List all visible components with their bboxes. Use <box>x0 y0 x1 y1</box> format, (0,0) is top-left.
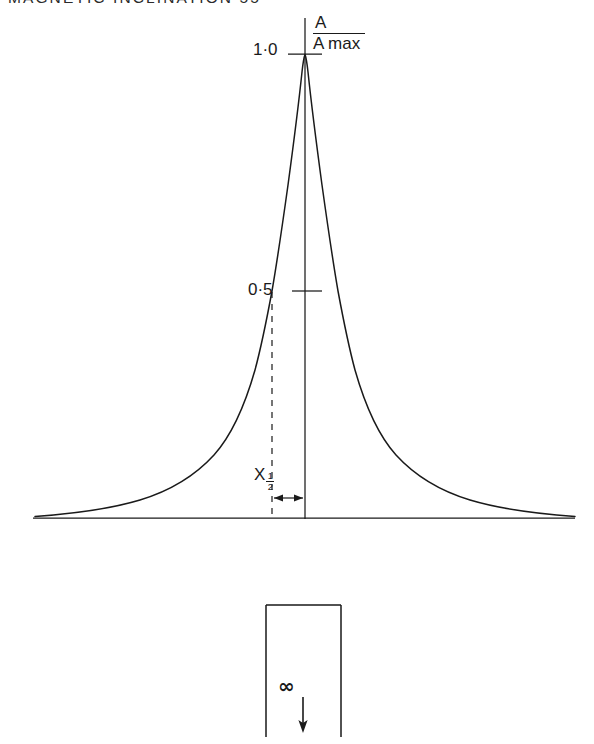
infinity-symbol: ∞ <box>278 676 295 696</box>
half-width-label: X 1 2 <box>254 466 274 491</box>
y-tick-label-1-0: 1·0 <box>253 40 278 60</box>
half-width-label-subscript: 1 2 <box>266 472 274 491</box>
y-axis-label-numerator: A <box>313 14 383 31</box>
magnetic-anomaly-plot <box>0 0 594 744</box>
y-axis-label-denominator: A max <box>313 35 383 53</box>
half-width-subscript-denominator: 2 <box>266 482 274 491</box>
half-width-arrowhead-right <box>294 495 303 502</box>
half-width-arrowhead-left <box>274 495 283 502</box>
half-width-subscript-numerator: 1 <box>266 472 274 480</box>
y-axis-label: A A max <box>313 14 383 53</box>
y-tick-label-0-5: 0·5 <box>248 280 273 300</box>
figure-root: MAGNETIC INCLINATION 55 A A max 1·0 0·5 <box>0 0 594 744</box>
half-width-label-symbol: X <box>254 466 265 483</box>
